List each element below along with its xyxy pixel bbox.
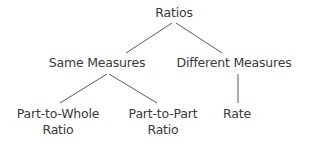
node-ratios-label: Ratios — [155, 5, 192, 20]
node-part-to-whole-ratio: Part-to-Whole Ratio — [17, 106, 99, 138]
node-different-measures: Different Measures — [177, 55, 292, 71]
node-different-measures-label: Different Measures — [177, 55, 292, 70]
node-part-to-whole-line1: Part-to-Whole — [17, 106, 99, 122]
node-part-to-part-line1: Part-to-Part — [129, 106, 198, 122]
node-ratios: Ratios — [155, 5, 192, 21]
node-part-to-whole-line2: Ratio — [17, 122, 99, 138]
node-rate: Rate — [223, 106, 251, 122]
node-rate-label: Rate — [223, 106, 251, 121]
node-part-to-part-line2: Ratio — [129, 122, 198, 138]
edge-ratios-same — [126, 23, 172, 53]
ratios-tree-diagram: Ratios Same Measures Different Measures … — [0, 0, 312, 146]
edge-ratios-different — [176, 23, 222, 53]
node-part-to-part-ratio: Part-to-Part Ratio — [129, 106, 198, 138]
node-same-measures-label: Same Measures — [49, 55, 145, 70]
edge-same-part-to-whole — [60, 74, 107, 103]
edge-same-part-to-part — [109, 74, 157, 103]
node-same-measures: Same Measures — [49, 55, 145, 71]
